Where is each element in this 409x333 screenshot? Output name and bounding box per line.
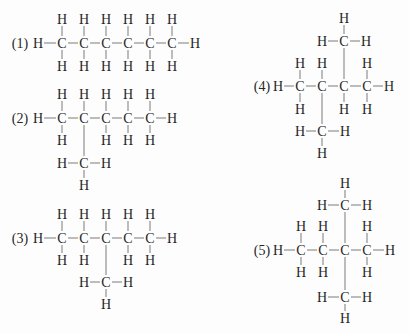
hydrogen-atom: H [317, 34, 327, 49]
hydrogen-atom: H [190, 36, 200, 51]
carbon-atom: C [101, 231, 110, 246]
carbon-atom: C [339, 79, 348, 94]
carbon-atom: C [145, 111, 154, 126]
molecule-1-hexane: HCHHCHHCHHCHHCHHCHHH(1) [12, 12, 200, 74]
carbon-atom: C [101, 36, 110, 51]
carbon-atom: C [123, 231, 132, 246]
hydrogen-atom: H [101, 156, 111, 171]
hydrogen-atom: H [167, 111, 177, 126]
hydrogen-atom: H [340, 124, 350, 139]
hydrogen-atom: H [101, 133, 111, 148]
molecule-3-3-methylpentane: HCHHCHHCHCHHCHHHCHHH(3) [12, 207, 177, 312]
molecule-number-label: (5) [254, 243, 271, 259]
isomer-diagram: HCHHCHHCHHCHHCHHCHHH(1) HCHHCHCHHCHHCHHH… [0, 0, 409, 333]
hydrogen-atom: H [273, 79, 283, 94]
hydrogen-atom: H [145, 12, 155, 27]
carbon-atom: C [340, 243, 349, 258]
carbon-atom: C [101, 275, 110, 290]
carbon-atom: C [57, 231, 66, 246]
hydrogen-atom: H [296, 219, 306, 234]
hydrogen-atom: H [57, 59, 67, 74]
hydrogen-atom: H [145, 59, 155, 74]
carbon-atom: C [362, 79, 371, 94]
hydrogen-atom: H [79, 207, 89, 222]
hydrogen-atom: H [79, 275, 89, 290]
hydrogen-atom: H [318, 265, 328, 280]
hydrogen-atom: H [101, 297, 111, 312]
hydrogen-atom: H [79, 178, 89, 193]
carbon-atom: C [79, 156, 88, 171]
hydrogen-atom: H [167, 12, 177, 27]
hydrogen-atom: H [79, 253, 89, 268]
hydrogen-atom: H [362, 219, 372, 234]
carbon-atom: C [340, 290, 349, 305]
hydrogen-atom: H [145, 207, 155, 222]
hydrogen-atom: H [295, 102, 305, 117]
carbon-atom: C [79, 231, 88, 246]
carbon-atom: C [145, 36, 154, 51]
hydrogen-atom: H [295, 124, 305, 139]
hydrogen-atom: H [101, 87, 111, 102]
carbon-atom: C [123, 36, 132, 51]
carbon-atom: C [57, 36, 66, 51]
carbon-atom: C [79, 111, 88, 126]
carbon-atom: C [339, 34, 348, 49]
hydrogen-atom: H [273, 243, 283, 258]
hydrogen-atom: H [362, 56, 372, 71]
hydrogen-atom: H [145, 133, 155, 148]
hydrogen-atom: H [57, 253, 67, 268]
carbon-atom: C [362, 243, 371, 258]
molecule-2-2-methylpentane: HCHHCHCHHCHHCHHHCHHH(2) [12, 87, 177, 193]
hydrogen-atom: H [296, 265, 306, 280]
hydrogen-atom: H [79, 12, 89, 27]
hydrogen-atom: H [384, 79, 394, 94]
carbon-atom: C [101, 111, 110, 126]
carbon-atom: C [317, 124, 326, 139]
hydrogen-atom: H [101, 12, 111, 27]
hydrogen-atom: H [362, 265, 372, 280]
hydrogen-atom: H [317, 290, 327, 305]
hydrogen-atom: H [339, 102, 349, 117]
carbon-atom: C [167, 36, 176, 51]
molecule-4-2-3-dimethylbutane: HCHHCHCHCHHHCHHHCHHH(4) [254, 11, 394, 161]
hydrogen-atom: H [123, 207, 133, 222]
hydrogen-atom: H [123, 253, 133, 268]
hydrogen-atom: H [317, 198, 327, 213]
molecule-number-label: (3) [12, 231, 29, 247]
hydrogen-atom: H [123, 275, 133, 290]
hydrogen-atom: H [340, 176, 350, 191]
hydrogen-atom: H [79, 59, 89, 74]
hydrogen-atom: H [101, 207, 111, 222]
hydrogen-atom: H [79, 87, 89, 102]
hydrogen-atom: H [101, 59, 111, 74]
molecule-5-2-2-dimethylbutane: HCHHCHHCCHHHCHHHCHHH(5) [254, 176, 395, 326]
carbon-atom: C [340, 198, 349, 213]
hydrogen-atom: H [317, 56, 327, 71]
hydrogen-atom: H [295, 56, 305, 71]
carbon-atom: C [79, 36, 88, 51]
hydrogen-atom: H [385, 243, 395, 258]
hydrogen-atom: H [361, 34, 371, 49]
molecule-number-label: (4) [254, 79, 271, 95]
carbon-atom: C [318, 243, 327, 258]
hydrogen-atom: H [145, 253, 155, 268]
hydrogen-atom: H [123, 59, 133, 74]
molecule-number-label: (1) [12, 36, 29, 52]
carbon-atom: C [145, 231, 154, 246]
molecule-number-label: (2) [12, 111, 29, 127]
carbon-atom: C [57, 111, 66, 126]
hydrogen-atom: H [57, 156, 67, 171]
hydrogen-atom: H [57, 207, 67, 222]
hydrogen-atom: H [123, 133, 133, 148]
hydrogen-atom: H [362, 102, 372, 117]
hydrogen-atom: H [57, 12, 67, 27]
hydrogen-atom: H [123, 87, 133, 102]
hydrogen-atom: H [33, 36, 43, 51]
hydrogen-atom: H [167, 231, 177, 246]
hydrogen-atom: H [318, 219, 328, 234]
hydrogen-atom: H [57, 133, 67, 148]
hydrogen-atom: H [362, 290, 372, 305]
hydrogen-atom: H [167, 59, 177, 74]
carbon-atom: C [317, 79, 326, 94]
hydrogen-atom: H [340, 311, 350, 326]
